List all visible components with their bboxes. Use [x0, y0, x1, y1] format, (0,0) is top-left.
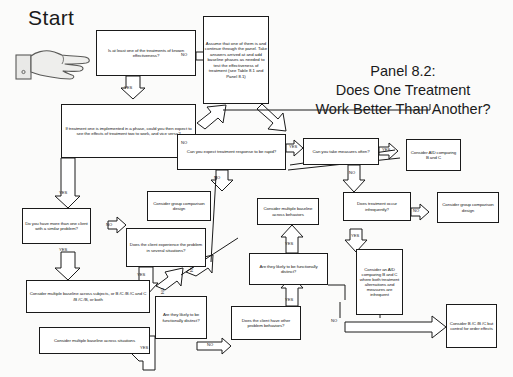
edge-label-no-7: NO — [207, 342, 213, 347]
edge-label-yes-9: YES — [285, 297, 293, 302]
node-measures-often[interactable]: Can you take measures often? — [303, 138, 379, 165]
node-group-comparison-right[interactable]: Consider group comparison design — [437, 192, 499, 223]
node-group-comparison-mid[interactable]: Consider group comparison design — [147, 191, 211, 221]
edge-label-yes-3: YES — [289, 144, 297, 149]
edge-label-no-1: NO — [181, 52, 187, 57]
edge-label-no-10: NO — [160, 288, 165, 294]
edge-label-yes-5: YES — [351, 233, 359, 238]
callout-note: Assume that one of them is and continue … — [203, 16, 269, 104]
title-line-1: Panel 8.2: — [296, 62, 510, 81]
node-functionally-distinct-behaviors[interactable]: Are they likely to be functionally disti… — [249, 253, 328, 285]
node-treatment-infrequent[interactable]: Does treatment occur infrequently? — [343, 192, 411, 221]
node-mb-across-subjects[interactable]: Consider multiple baseline across subjec… — [26, 280, 150, 313]
edge-label-no-6: NO — [106, 222, 112, 227]
edge-label-no-9: NO — [189, 266, 194, 272]
edge-label-yes-10: YES — [285, 241, 293, 246]
edge-label-no-3: NO — [214, 175, 220, 180]
node-problem-several-situations[interactable]: Does the client experience the problem i… — [126, 228, 206, 267]
edge-label-no-5: NO — [413, 208, 419, 213]
node-mb-across-behaviors[interactable]: Consider multiple baseline across behavi… — [257, 198, 319, 225]
callout-text: Assume that one of them is and continue … — [204, 41, 268, 80]
edge-label-yes-4: YES — [382, 147, 390, 152]
edge-label-yes-2: YES — [59, 190, 67, 195]
start-label: Start — [28, 6, 74, 30]
node-mb-across-situations[interactable]: Consider multiple baseline across situat… — [39, 327, 150, 354]
flowchart-canvas: Start Panel 8.2: Does One Treatment Work… — [0, 0, 513, 377]
node-treatment-one-phase[interactable]: If treatment one is implemented in a pha… — [61, 104, 196, 158]
node-response-rapid[interactable]: Can you expect treatment response to be … — [177, 134, 286, 170]
title-line-3: Work Better Than Another? — [296, 100, 510, 119]
node-bcbc-order-effects[interactable]: Consider B /C /B /C but control for orde… — [446, 304, 497, 348]
page-title: Panel 8.2: Does One Treatment Work Bette… — [296, 62, 510, 119]
pointing-hand-icon — [14, 42, 94, 88]
node-aid-b-and-c[interactable]: Consider AID comparing B and C — [406, 139, 461, 171]
node-aid-both-infrequent[interactable]: Consider an AID comparing B and C where … — [356, 249, 403, 315]
edge-label-no-2: NO — [181, 140, 187, 145]
title-line-2: Does One Treatment — [296, 81, 510, 100]
edge-label-yes-8: YES — [140, 345, 148, 350]
node-functionally-distinct-situations[interactable]: Are they likely to be functionally disti… — [155, 296, 207, 339]
edge-label-yes-7: YES — [137, 272, 145, 277]
edge-label-no-8: NO — [331, 318, 337, 323]
node-other-problem-behaviors[interactable]: Does the client have other problem behav… — [231, 306, 301, 340]
node-more-than-one-client[interactable]: Do you have more than one client with a … — [22, 208, 91, 244]
edge-label-yes-6: YES — [59, 247, 67, 252]
edge-label-yes-1: YES — [124, 85, 132, 90]
edge-label-no-4: NO — [349, 170, 355, 175]
